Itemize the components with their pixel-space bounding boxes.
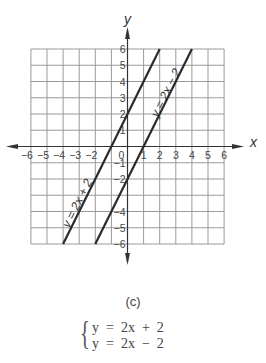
coordinate-plane: −6−5−4−3−20123456−6−5−4−2−1123456 y = 2x… bbox=[0, 0, 266, 292]
y-axis-label: y bbox=[123, 11, 132, 27]
arrow-left-icon bbox=[6, 144, 18, 149]
x-tick-label: 5 bbox=[205, 149, 211, 161]
x-tick-label: 4 bbox=[189, 149, 195, 161]
equation-system: { y = 2x + 2 y = 2x − 2 bbox=[92, 320, 164, 352]
arrow-right-icon bbox=[232, 144, 244, 149]
x-tick-label: −6 bbox=[21, 149, 33, 161]
y-tick-label: 5 bbox=[120, 59, 126, 71]
equation-2: y = 2x − 2 bbox=[92, 336, 164, 352]
arrow-down-icon bbox=[125, 253, 130, 265]
arrow-up-icon bbox=[125, 27, 130, 39]
y-tick-label: 4 bbox=[120, 76, 126, 88]
x-tick-label: 6 bbox=[221, 149, 227, 161]
line-label-1: y = 2x + 2 bbox=[59, 176, 96, 231]
x-tick-label: −4 bbox=[53, 149, 65, 161]
x-tick-label: −2 bbox=[85, 149, 97, 161]
y-tick-label: 6 bbox=[120, 43, 126, 55]
x-axis-label: x bbox=[249, 134, 258, 150]
line-label-2: y = 2x − 2 bbox=[147, 66, 184, 121]
y-tick-label: −4 bbox=[114, 206, 126, 218]
figure-caption: (c) bbox=[0, 294, 266, 309]
y-tick-label: −2 bbox=[114, 173, 126, 185]
brace-icon: { bbox=[80, 316, 90, 350]
y-tick-label: −1 bbox=[114, 157, 126, 169]
y-tick-label: 3 bbox=[120, 92, 126, 104]
equation-1: y = 2x + 2 bbox=[92, 320, 164, 336]
y-tick-label: −6 bbox=[114, 238, 126, 250]
x-tick-label: 2 bbox=[157, 149, 163, 161]
x-tick-label: −5 bbox=[37, 149, 49, 161]
x-tick-label: −3 bbox=[69, 149, 81, 161]
y-tick-label: −5 bbox=[114, 222, 126, 234]
x-tick-label: 3 bbox=[173, 149, 179, 161]
